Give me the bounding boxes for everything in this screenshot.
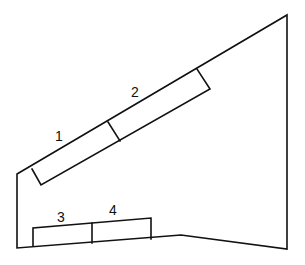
label-panel-2: 2 bbox=[131, 84, 139, 100]
ceiling-panels bbox=[32, 69, 210, 185]
floor-panels bbox=[33, 218, 151, 246]
room-diagram: 1 2 3 4 bbox=[0, 0, 305, 265]
ceiling-panels-frame bbox=[32, 69, 210, 185]
label-panel-3: 3 bbox=[57, 209, 65, 225]
label-panel-1: 1 bbox=[55, 128, 63, 144]
label-panel-4: 4 bbox=[109, 202, 117, 218]
ceiling-panel-divider bbox=[108, 122, 120, 141]
